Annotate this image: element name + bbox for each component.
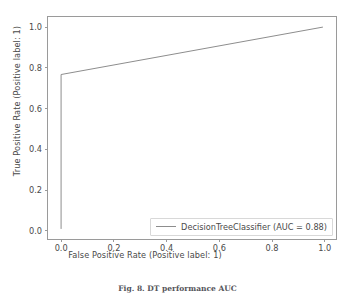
y-tick-mark xyxy=(45,27,48,28)
x-tick-mark xyxy=(272,239,273,242)
series-decisiontreeclassifier-polyline xyxy=(61,27,323,229)
y-tick-mark xyxy=(45,149,48,150)
y-tick-mark xyxy=(45,67,48,68)
y-tick-mark xyxy=(45,108,48,109)
y-tick-label: 0.4 xyxy=(29,145,42,153)
y-tick-label: 0.6 xyxy=(29,105,42,113)
legend-line-swatch xyxy=(156,226,176,227)
y-tick-label: 0.8 xyxy=(29,64,42,72)
legend-entry-label: DecisionTreeClassifier (AUC = 0.88) xyxy=(181,223,327,231)
y-axis-title: True Positive Rate (Positive label: 1) xyxy=(12,0,22,211)
x-tick-mark xyxy=(219,239,220,242)
y-tick-label: 1.0 xyxy=(29,23,42,31)
x-tick-label: 1.0 xyxy=(318,244,331,252)
x-tick-mark xyxy=(61,239,62,242)
roc-curve-figure: 0.00.20.40.60.81.0 0.00.20.40.60.81.0 De… xyxy=(0,0,355,293)
x-axis-title: False Positive Rate (Positive label: 1) xyxy=(0,250,290,260)
y-tick-mark xyxy=(45,190,48,191)
x-tick-mark xyxy=(166,239,167,242)
roc-curve-line xyxy=(48,17,336,239)
y-tick-mark xyxy=(45,230,48,231)
x-tick-mark xyxy=(113,239,114,242)
y-tick-label: 0.0 xyxy=(29,227,42,235)
figure-caption: Fig. 8. DT performance AUC xyxy=(0,284,355,293)
x-tick-mark xyxy=(324,239,325,242)
plot-area: 0.00.20.40.60.81.0 0.00.20.40.60.81.0 De… xyxy=(47,16,337,240)
legend: DecisionTreeClassifier (AUC = 0.88) xyxy=(150,218,333,236)
y-tick-label: 0.2 xyxy=(29,186,42,194)
